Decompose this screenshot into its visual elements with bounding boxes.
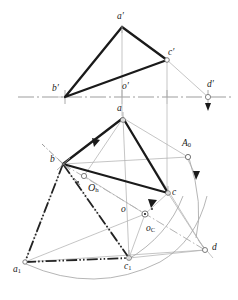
figure-canvas (0, 0, 238, 300)
label-c-one: c1 (124, 262, 131, 272)
label-a-prime: a′ (117, 12, 124, 22)
arc-a1-to-c1-to-top (26, 196, 207, 279)
lower-point-markers (23, 118, 208, 265)
label-b-prime: b′ (52, 84, 59, 94)
label-c-prime: c′ (168, 48, 174, 58)
label-d-prime: d′ (207, 80, 214, 90)
point-marker-c-prime (165, 58, 170, 63)
descriptive-geometry-figure: a′ b′ c′ d′ o′ a b c d o oC Oh A0 a1 c1 (0, 0, 238, 300)
point-marker-oc-center (144, 213, 146, 215)
right-angle-dot-oc (151, 208, 153, 210)
triangle-a-b-c-prime (65, 27, 167, 97)
label-c: c (172, 188, 176, 198)
line-a-to-c1 (123, 118, 129, 258)
upper-construction-lines (58, 30, 208, 97)
point-marker-Oh (81, 173, 86, 178)
line-c-prime-d-prime (167, 60, 208, 97)
line-b-to-A0 (63, 157, 188, 164)
point-marker-a1 (23, 260, 27, 264)
line-a-to-A0 (123, 118, 188, 157)
line-a-to-Oh (84, 118, 123, 176)
line-oc-to-c1 (129, 214, 145, 258)
point-marker-d-prime (205, 94, 210, 99)
label-d: d (212, 243, 217, 253)
label-o-prime: o′ (122, 82, 129, 92)
triangle-a-b-c-prime-outline (65, 27, 167, 97)
label-o-h: Oh (88, 183, 99, 194)
label-a-one: a1 (13, 265, 21, 275)
label-o-c: oC (146, 224, 155, 234)
interview-projectors (122, 104, 208, 191)
point-marker-A0 (185, 154, 190, 159)
point-marker-d (203, 248, 208, 253)
arrow-d-prime-down (205, 103, 211, 111)
label-b: b (50, 155, 55, 165)
line-c-to-oc (145, 193, 168, 214)
label-a: a (117, 104, 122, 114)
arrow-ab-direction (92, 138, 100, 147)
label-a-zero: A0 (182, 139, 191, 149)
label-o: o (121, 205, 126, 215)
